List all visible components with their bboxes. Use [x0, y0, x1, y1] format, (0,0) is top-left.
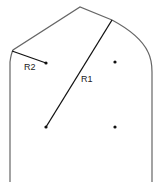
radius-r1-line: [46, 20, 112, 127]
center-dot-upper-left: [44, 61, 47, 64]
label-r2: R2: [24, 62, 36, 72]
arch-diagram: R2 R1: [0, 0, 158, 192]
center-dot-lower-right: [113, 125, 116, 128]
label-r1: R1: [81, 74, 93, 84]
center-dot-lower-left: [44, 125, 47, 128]
arch-outline: [10, 7, 152, 182]
center-dot-upper-right: [113, 60, 116, 63]
